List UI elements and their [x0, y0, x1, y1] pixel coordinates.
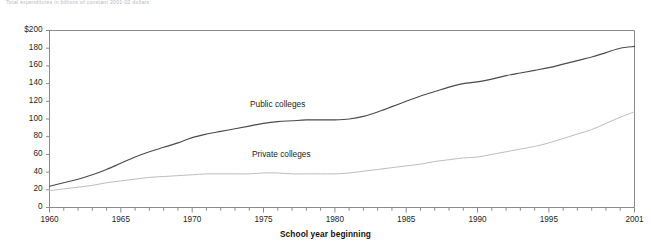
y-tick-label: 140	[0, 79, 43, 87]
x-tick-label: 1965	[101, 216, 141, 224]
series-label-public-colleges: Public colleges	[250, 100, 305, 109]
chart-plot-area	[0, 0, 651, 249]
chart-root: Total expenditures in billions of consta…	[0, 0, 651, 249]
x-tick-label: 1960	[30, 216, 70, 224]
chart-tick-marks	[46, 31, 635, 213]
series-line-private-colleges	[50, 112, 635, 191]
x-tick-label: 2001	[615, 216, 651, 224]
x-tick-label: 1985	[386, 216, 426, 224]
y-tick-label: 180	[0, 44, 43, 52]
chart-axes	[50, 31, 635, 208]
y-tick-label: 0	[0, 203, 43, 211]
y-tick-label: 60	[0, 150, 43, 158]
x-axis-title: School year beginning	[0, 229, 651, 239]
y-tick-label: $200	[0, 26, 43, 34]
y-tick-label: 40	[0, 168, 43, 176]
series-label-private-colleges: Private colleges	[252, 150, 311, 159]
x-tick-label: 1990	[458, 216, 498, 224]
series-line-public-colleges	[50, 46, 635, 186]
y-tick-label: 20	[0, 185, 43, 193]
y-tick-label: 120	[0, 97, 43, 105]
y-tick-label: 160	[0, 61, 43, 69]
x-tick-label: 1995	[529, 216, 569, 224]
x-tick-label: 1975	[244, 216, 284, 224]
y-tick-label: 100	[0, 115, 43, 123]
x-tick-label: 1980	[315, 216, 355, 224]
x-tick-label: 1970	[172, 216, 212, 224]
y-tick-label: 80	[0, 132, 43, 140]
